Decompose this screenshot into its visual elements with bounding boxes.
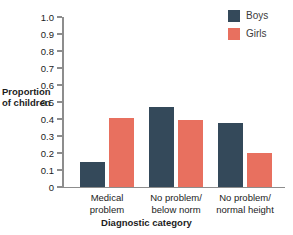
y-axis-tick-label: 0.4	[41, 114, 54, 125]
bar-girls	[109, 118, 134, 187]
y-axis-tick-label: 0.8	[41, 46, 54, 57]
y-axis-tick-label: 0.1	[41, 165, 54, 176]
plot-area	[62, 17, 285, 187]
bar-boys	[218, 123, 243, 187]
y-axis-tick-label: 0	[49, 182, 54, 193]
bar-chart-figure: Boys Girls Proportion of children 00.10.…	[0, 0, 293, 235]
y-axis-tick-label: 0.2	[41, 148, 54, 159]
y-axis-tick-label: 0.7	[41, 63, 54, 74]
bar-girls	[247, 153, 272, 187]
x-axis-title: Diagnostic category	[0, 217, 293, 228]
y-axis-tick-label: 0.9	[41, 29, 54, 40]
bar-girls	[178, 120, 203, 187]
bar-boys	[149, 107, 174, 187]
bar-group	[218, 17, 272, 187]
y-axis-tick-label: 0.3	[41, 131, 54, 142]
y-axis-tick-label: 0.6	[41, 80, 54, 91]
y-axis-tick-label: 0.5	[41, 97, 54, 108]
bar-group	[80, 17, 134, 187]
y-axis-tick-label: 1.0	[41, 12, 54, 23]
x-axis-category-label: No problem/ normal height	[200, 192, 290, 215]
bar-boys	[80, 162, 105, 188]
bar-group	[149, 17, 203, 187]
